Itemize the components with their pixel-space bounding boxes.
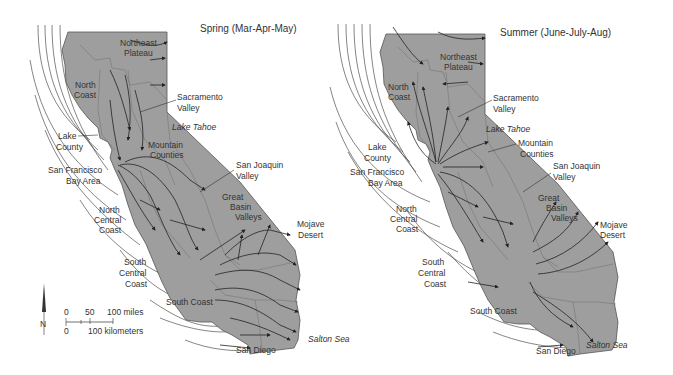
svg-text:Northeast: Northeast xyxy=(440,52,477,62)
svg-text:Valley: Valley xyxy=(177,103,200,113)
svg-text:County: County xyxy=(364,153,392,163)
svg-text:Coast: Coast xyxy=(388,92,411,102)
summer-title: Summer (June-July-Aug) xyxy=(500,27,611,38)
svg-text:Lake: Lake xyxy=(58,131,77,141)
svg-text:Basin: Basin xyxy=(230,202,252,212)
svg-text:Desert: Desert xyxy=(600,230,626,240)
svg-text:Sacramento: Sacramento xyxy=(493,93,539,103)
svg-text:Salton Sea: Salton Sea xyxy=(586,340,628,350)
svg-text:North: North xyxy=(396,204,417,214)
svg-text:Sacramento: Sacramento xyxy=(177,92,223,102)
svg-text:North: North xyxy=(99,205,120,215)
svg-text:San Joaquin: San Joaquin xyxy=(553,161,601,171)
svg-text:San Joaquin: San Joaquin xyxy=(236,160,284,170)
svg-text:Northeast: Northeast xyxy=(120,38,157,48)
svg-text:Coast: Coast xyxy=(74,90,97,100)
svg-text:San Diego: San Diego xyxy=(536,346,576,356)
svg-text:Central: Central xyxy=(119,268,147,278)
svg-text:Lake Tahoe: Lake Tahoe xyxy=(486,124,530,134)
svg-text:Lake: Lake xyxy=(368,142,387,152)
svg-text:Lake Tahoe: Lake Tahoe xyxy=(172,122,216,132)
svg-text:100 miles: 100 miles xyxy=(107,307,143,317)
svg-text:Plateau: Plateau xyxy=(124,48,153,58)
svg-text:South Coast: South Coast xyxy=(470,306,517,316)
svg-text:Mountain: Mountain xyxy=(518,138,553,148)
svg-text:0: 0 xyxy=(64,326,69,336)
svg-text:Bay Area: Bay Area xyxy=(66,176,101,186)
svg-text:100 kilometers: 100 kilometers xyxy=(88,326,143,336)
svg-text:Basin: Basin xyxy=(546,203,568,213)
wind-flow-maps: Spring (Mar-Apr-May) Northeast Plateau N… xyxy=(0,0,673,375)
svg-text:50: 50 xyxy=(85,307,95,317)
spring-title: Spring (Mar-Apr-May) xyxy=(200,23,297,34)
svg-text:Counties: Counties xyxy=(520,149,554,159)
svg-text:Mojave: Mojave xyxy=(600,220,628,230)
svg-text:N: N xyxy=(40,319,46,329)
svg-text:Central: Central xyxy=(418,268,446,278)
svg-text:Coast: Coast xyxy=(125,279,148,289)
svg-text:Valleys: Valleys xyxy=(235,212,262,222)
svg-text:Great: Great xyxy=(222,192,244,202)
svg-text:Valley: Valley xyxy=(236,171,259,181)
svg-text:San Francisco: San Francisco xyxy=(48,165,103,175)
svg-text:South: South xyxy=(422,257,444,267)
svg-text:North: North xyxy=(75,80,96,90)
svg-text:Coast: Coast xyxy=(99,225,122,235)
svg-text:Valley: Valley xyxy=(493,104,516,114)
svg-text:Counties: Counties xyxy=(150,150,184,160)
svg-text:South Coast: South Coast xyxy=(166,297,213,307)
svg-text:South: South xyxy=(124,257,146,267)
svg-text:Coast: Coast xyxy=(396,224,419,234)
svg-text:0: 0 xyxy=(64,307,69,317)
svg-text:Central: Central xyxy=(390,214,418,224)
svg-text:Central: Central xyxy=(94,215,122,225)
svg-text:County: County xyxy=(56,142,84,152)
svg-text:Plateau: Plateau xyxy=(444,62,473,72)
summer-panel: Summer (June-July-Aug) Northeast Plateau… xyxy=(330,24,628,356)
svg-text:North: North xyxy=(388,82,409,92)
svg-text:Great: Great xyxy=(538,193,560,203)
svg-text:Coast: Coast xyxy=(424,279,447,289)
svg-text:Valley: Valley xyxy=(553,172,576,182)
svg-text:San Francisco: San Francisco xyxy=(350,167,405,177)
svg-text:Bay Area: Bay Area xyxy=(368,178,403,188)
svg-text:Desert: Desert xyxy=(298,230,324,240)
svg-text:Mojave: Mojave xyxy=(297,219,325,229)
svg-text:Mountain: Mountain xyxy=(148,140,183,150)
north-arrow: N xyxy=(40,283,46,335)
spring-panel: Spring (Mar-Apr-May) Northeast Plateau N… xyxy=(30,23,350,355)
svg-text:Salton Sea: Salton Sea xyxy=(308,334,350,344)
svg-text:Valleys: Valleys xyxy=(551,213,578,223)
scale-bar: 0 50 100 miles 0 100 kilometers xyxy=(64,307,143,336)
svg-text:San Diego: San Diego xyxy=(236,345,276,355)
